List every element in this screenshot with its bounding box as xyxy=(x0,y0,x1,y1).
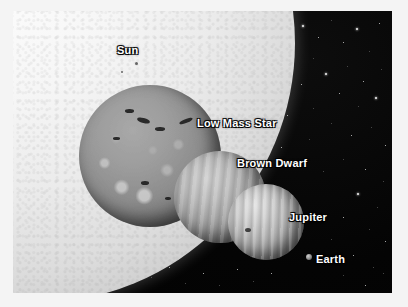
earth-body xyxy=(306,254,312,260)
star xyxy=(369,229,370,230)
star xyxy=(377,207,378,208)
star xyxy=(343,217,344,218)
star xyxy=(343,159,344,160)
label-low-mass-star: Low Mass Star xyxy=(197,117,277,129)
star xyxy=(383,273,384,274)
star xyxy=(353,255,354,256)
star xyxy=(287,115,288,116)
star xyxy=(358,106,359,107)
label-earth: Earth xyxy=(316,253,345,265)
star xyxy=(313,108,314,109)
star xyxy=(219,285,220,286)
star xyxy=(331,20,332,21)
star xyxy=(271,273,272,274)
star xyxy=(363,81,364,82)
star xyxy=(383,181,384,182)
star xyxy=(302,25,304,27)
star xyxy=(351,135,352,136)
space-scene: Sun Low Mass Star Brown Dwarf Jupiter Ea… xyxy=(13,11,392,293)
star xyxy=(318,37,319,38)
starspot xyxy=(165,197,171,200)
star xyxy=(185,283,186,284)
star xyxy=(347,66,348,67)
star xyxy=(381,69,382,70)
star xyxy=(313,58,314,59)
star xyxy=(309,139,310,140)
star xyxy=(301,84,302,85)
star xyxy=(343,42,344,43)
star xyxy=(253,281,254,282)
starspot xyxy=(125,109,134,113)
starspot xyxy=(113,137,120,140)
star xyxy=(339,93,340,94)
star xyxy=(331,239,332,240)
star xyxy=(369,51,370,52)
label-brown-dwarf: Brown Dwarf xyxy=(237,157,307,169)
starspot xyxy=(155,127,165,131)
starspot xyxy=(141,181,149,185)
star xyxy=(379,23,380,24)
star xyxy=(151,277,152,278)
label-sun: Sun xyxy=(117,44,138,56)
sun-speck xyxy=(121,71,123,73)
sun-speck xyxy=(135,62,138,65)
star xyxy=(365,285,366,286)
star xyxy=(343,275,344,276)
star xyxy=(375,97,377,99)
star xyxy=(356,28,358,30)
star xyxy=(357,193,359,195)
size-comparison-figure: Sun Low Mass Star Brown Dwarf Jupiter Ea… xyxy=(0,0,408,307)
star xyxy=(385,241,386,242)
star xyxy=(281,147,282,148)
star xyxy=(203,273,204,274)
star xyxy=(385,145,386,146)
star xyxy=(373,267,374,268)
label-jupiter: Jupiter xyxy=(289,211,327,223)
star xyxy=(169,267,170,268)
star xyxy=(325,73,327,75)
star xyxy=(323,171,324,172)
star xyxy=(365,169,366,170)
star xyxy=(331,123,332,124)
jupiter-spot xyxy=(245,228,251,232)
star xyxy=(371,127,372,128)
star xyxy=(237,269,238,270)
